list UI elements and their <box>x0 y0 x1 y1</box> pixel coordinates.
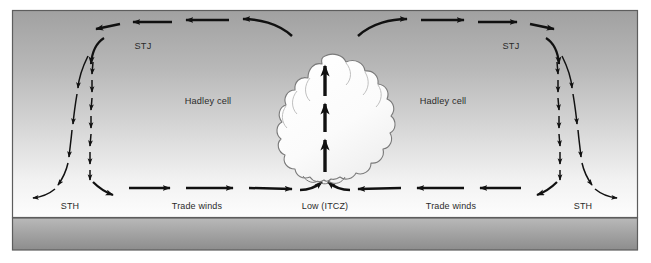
ground-panel <box>13 218 638 250</box>
trade-arrow-left-3 <box>249 188 292 189</box>
label-stj-left: STJ <box>135 41 152 51</box>
sld-3 <box>91 98 92 110</box>
srd-1 <box>557 62 558 74</box>
sld-1 <box>92 62 93 74</box>
ground-rect <box>13 218 638 250</box>
label-sth-left: STH <box>61 201 79 211</box>
label-low-itcz: Low (ITCZ) <box>302 201 349 211</box>
label-hadley-cell-left: Hadley cell <box>185 96 232 106</box>
srd-3 <box>558 98 559 110</box>
label-trade-winds-left: Trade winds <box>172 201 223 211</box>
label-sth-right: STH <box>574 201 592 211</box>
sld-5 <box>90 134 91 146</box>
label-hadley-cell-right: Hadley cell <box>420 96 467 106</box>
label-stj-right: STJ <box>503 41 520 51</box>
label-trade-winds-right: Trade winds <box>426 201 477 211</box>
trade-arrow-right-3 <box>358 188 401 189</box>
hadley-cell-diagram: STJ STJ Hadley cell Hadley cell STH STH … <box>0 0 651 263</box>
diagram-canvas: STJ STJ Hadley cell Hadley cell STH STH … <box>0 0 651 263</box>
srd-5 <box>559 134 560 146</box>
